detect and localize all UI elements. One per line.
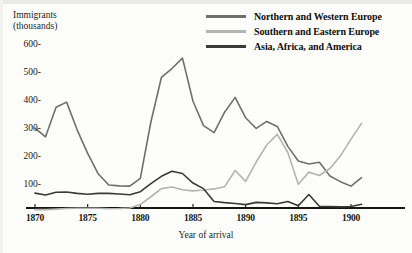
y-tick-label-500: 500- bbox=[7, 67, 41, 77]
x-tick-label-1885: 1885 bbox=[173, 213, 213, 223]
series-line-2 bbox=[35, 171, 362, 207]
x-tick-label-1900: 1900 bbox=[331, 213, 371, 223]
x-axis-title: Year of arrival bbox=[0, 230, 412, 241]
line-chart: Immigrants(thousands) Year of arrival 10… bbox=[0, 0, 412, 253]
legend-item-1[interactable]: Southern and Eastern Europe bbox=[206, 24, 412, 39]
y-tick-label-600: 600- bbox=[7, 39, 41, 49]
series-line-0 bbox=[35, 58, 362, 186]
y-tick-label-300: 300- bbox=[7, 123, 41, 133]
legend-item-2[interactable]: Asia, Africa, and America bbox=[206, 39, 412, 54]
y-tick-label-400: 400- bbox=[7, 95, 41, 105]
y-tick-label-200: 200- bbox=[7, 151, 41, 161]
legend-item-label: Northern and Western Europe bbox=[254, 11, 382, 22]
y-axis-title: Immigrants(thousands) bbox=[13, 10, 57, 31]
legend-line-swatch-icon bbox=[206, 45, 246, 48]
legend-item-label: Asia, Africa, and America bbox=[254, 41, 362, 52]
y-axis-title-line-1: (thousands) bbox=[13, 21, 57, 32]
x-tick-label-1890: 1890 bbox=[226, 213, 266, 223]
x-tick-label-1870: 1870 bbox=[15, 213, 55, 223]
y-axis-title-line-0: Immigrants bbox=[13, 10, 57, 21]
legend-line-swatch-icon bbox=[206, 30, 246, 33]
chart-legend: Northern and Western EuropeSouthern and … bbox=[206, 9, 412, 54]
series-line-1 bbox=[35, 123, 362, 209]
legend-item-0[interactable]: Northern and Western Europe bbox=[206, 9, 412, 24]
legend-item-label: Southern and Eastern Europe bbox=[254, 26, 379, 37]
y-tick-label-100: 100- bbox=[7, 179, 41, 189]
x-tick-label-1875: 1875 bbox=[68, 213, 108, 223]
x-tick-label-1895: 1895 bbox=[278, 213, 318, 223]
x-tick-label-1880: 1880 bbox=[120, 213, 160, 223]
chart-screenshot: Immigrants(thousands) Year of arrival 10… bbox=[0, 0, 412, 253]
legend-line-swatch-icon bbox=[206, 15, 246, 18]
